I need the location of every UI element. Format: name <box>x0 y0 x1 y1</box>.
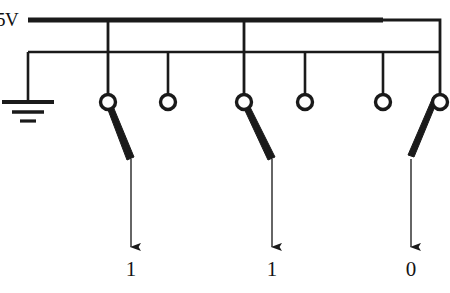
terminal-b-in[interactable] <box>237 95 252 110</box>
power-drop-c <box>383 20 440 95</box>
terminal-a-out[interactable] <box>161 95 176 110</box>
terminal-c-in[interactable] <box>433 95 448 110</box>
output-value-a: 1 <box>116 259 146 280</box>
terminal-a-in[interactable] <box>101 95 116 110</box>
terminal-c-out[interactable] <box>376 95 391 110</box>
circuit-diagram-canvas: 5V 1 1 0 <box>0 0 450 293</box>
power-rail-label: 5V <box>0 10 18 29</box>
terminal-b-out[interactable] <box>298 95 313 110</box>
circuit-schematic-svg <box>0 0 450 293</box>
output-value-c: 0 <box>396 259 426 280</box>
output-value-b: 1 <box>257 259 287 280</box>
